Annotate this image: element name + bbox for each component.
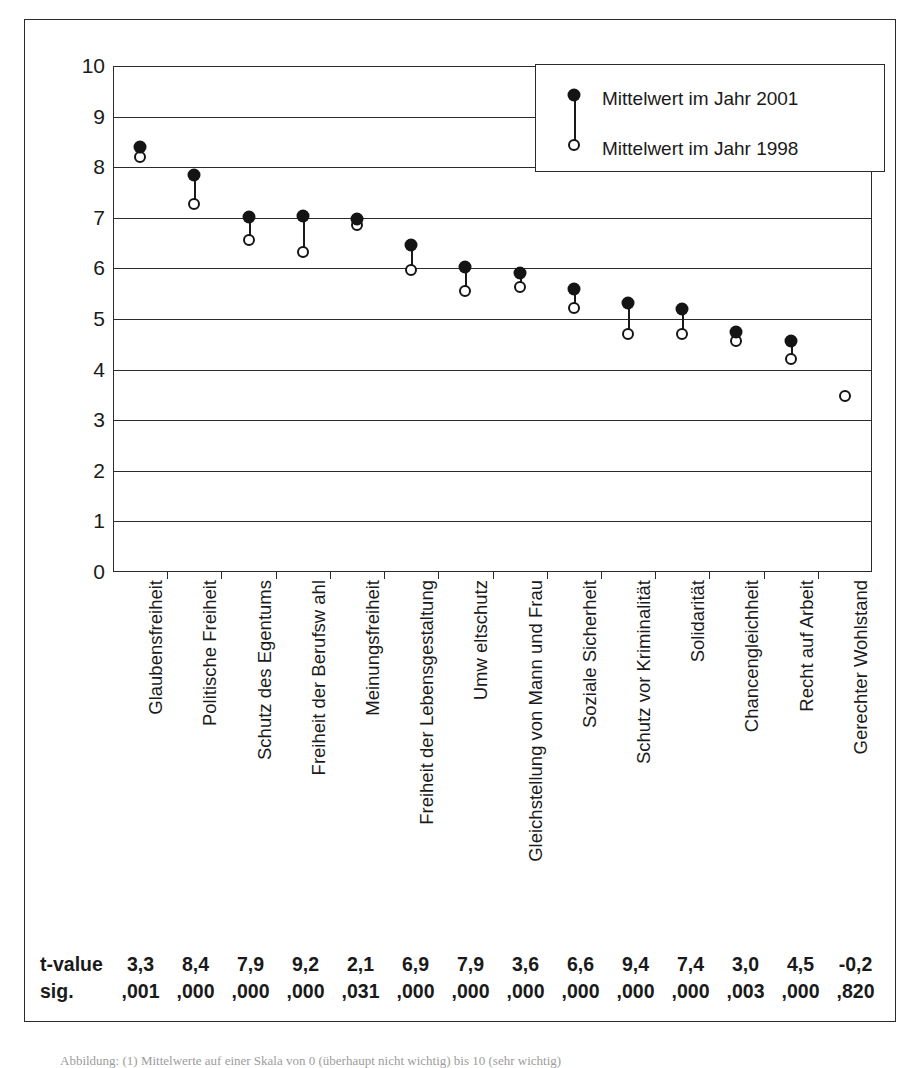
stats-row: sig.,001,000,000,000,031,000,000,000,000…: [40, 982, 885, 1008]
gridline: [113, 370, 872, 371]
x-axis-category-label: Gleichstellung von Mann und Frau: [527, 580, 546, 862]
category-label-text: Solidarität: [689, 580, 708, 662]
y-axis-tick-label: 7: [65, 207, 105, 228]
stats-cell: 6,9: [402, 955, 429, 975]
x-axis-category-label: Umw eltschutz: [472, 580, 491, 700]
x-axis-tick: [547, 572, 548, 579]
data-point-1998: [405, 264, 417, 276]
stats-cell: ,000: [672, 982, 710, 1002]
data-point-1998: [188, 198, 200, 210]
data-point-2001: [784, 334, 797, 347]
x-axis-tick: [764, 572, 765, 579]
x-axis-category-label: Schutz des Egentums: [256, 580, 275, 760]
stats-cell: ,003: [727, 982, 765, 1002]
x-axis-category-label: Solidarität: [689, 580, 708, 662]
x-axis-tick: [384, 572, 385, 579]
gridline: [113, 521, 872, 522]
stats-cell: ,031: [342, 982, 380, 1002]
data-point-2001: [459, 261, 472, 274]
data-point-1998: [839, 390, 851, 402]
stats-cell: ,000: [617, 982, 655, 1002]
stats-cell: 7,4: [677, 955, 704, 975]
x-axis-tick: [438, 572, 439, 579]
x-axis-category-labels: GlaubensfreiheitPolitische FreiheitSchut…: [113, 580, 872, 940]
x-axis-tick: [330, 572, 331, 579]
x-axis-tick: [276, 572, 277, 579]
x-axis-category-label: Meinungsfreiheit: [364, 580, 383, 716]
y-axis-tick-label: 4: [65, 359, 105, 380]
x-axis-category-label: Schutz vor Kriminalität: [635, 580, 654, 764]
data-point-1998: [243, 234, 255, 246]
y-axis-tick-label: 5: [65, 308, 105, 329]
stats-cell: 2,1: [347, 955, 374, 975]
category-label-text: Chancengleichheit: [743, 580, 762, 732]
stats-cell: ,000: [782, 982, 820, 1002]
x-axis-tick: [601, 572, 602, 579]
gridline: [113, 319, 872, 320]
data-point-1998: [676, 328, 688, 340]
category-label-text: Meinungsfreiheit: [364, 580, 383, 716]
stats-cell: 3,0: [732, 955, 759, 975]
x-axis-category-label: Gerechter Wohlstand: [852, 580, 871, 754]
x-axis-category-label: Freiheit der Berufsw ahl: [310, 580, 329, 775]
stats-cell: 3,6: [512, 955, 539, 975]
category-label-text: Recht auf Arbeit: [798, 580, 817, 712]
category-label-text: Freiheit der Lebensgestaltung: [418, 580, 437, 825]
x-axis-ticks: [113, 572, 872, 580]
y-axis-tick-label: 3: [65, 409, 105, 430]
stats-cell: 9,4: [622, 955, 649, 975]
y-axis-tick-label: 1: [65, 510, 105, 531]
data-point-1998: [297, 246, 309, 258]
gridline: [113, 218, 872, 219]
stats-cell: 4,5: [787, 955, 814, 975]
legend: Mittelwert im Jahr 2001 Mittelwert im Ja…: [535, 64, 885, 172]
stats-cell: 7,9: [237, 955, 264, 975]
y-axis-tick-label: 8: [65, 156, 105, 177]
stats-cell: 9,2: [292, 955, 319, 975]
data-point-2001: [350, 213, 363, 226]
y-axis: 012345678910: [55, 66, 105, 572]
x-axis-tick: [167, 572, 168, 579]
category-label-text: Soziale Sicherheit: [581, 580, 600, 728]
x-axis-category-label: Chancengleichheit: [743, 580, 762, 732]
x-axis-category-label: Freiheit der Lebensgestaltung: [418, 580, 437, 825]
data-point-1998: [514, 281, 526, 293]
x-axis-tick: [493, 572, 494, 579]
gridline: [113, 420, 872, 421]
legend-connector: [574, 95, 576, 145]
stats-cell: -0,2: [839, 955, 873, 975]
data-point-2001: [567, 282, 580, 295]
data-point-2001: [730, 325, 743, 338]
data-point-2001: [188, 168, 201, 181]
stats-cell: ,000: [177, 982, 215, 1002]
data-point-2001: [296, 210, 309, 223]
x-axis-category-label: Politische Freiheit: [201, 580, 220, 726]
gridline: [113, 471, 872, 472]
category-label-text: Gleichstellung von Mann und Frau: [527, 580, 546, 862]
x-axis-category-label: Recht auf Arbeit: [798, 580, 817, 712]
legend-marker-2001-icon: [568, 89, 581, 102]
y-axis-tick-label: 0: [65, 561, 105, 582]
category-label-text: Politische Freiheit: [201, 580, 220, 726]
data-point-1998: [459, 285, 471, 297]
category-label-text: Schutz vor Kriminalität: [635, 580, 654, 764]
x-axis-tick: [655, 572, 656, 579]
data-point-1998: [622, 328, 634, 340]
y-axis-tick-label: 9: [65, 106, 105, 127]
x-axis-category-label: Glaubensfreiheit: [147, 580, 166, 715]
data-point-2001: [134, 140, 147, 153]
stats-row: t-value3,38,47,99,22,16,97,93,66,69,47,4…: [40, 955, 885, 981]
gridline: [113, 268, 872, 269]
stats-cell: ,000: [397, 982, 435, 1002]
data-point-2001: [676, 302, 689, 315]
data-point-1998: [785, 353, 797, 365]
y-axis-tick-label: 6: [65, 257, 105, 278]
data-point-2001: [622, 296, 635, 309]
category-label-text: Glaubensfreiheit: [147, 580, 166, 715]
stats-cell: ,820: [837, 982, 875, 1002]
stats-cell: ,000: [562, 982, 600, 1002]
stats-cell: 6,6: [567, 955, 594, 975]
category-label-text: Freiheit der Berufsw ahl: [310, 580, 329, 775]
stats-cell: ,001: [122, 982, 160, 1002]
legend-marker-1998-icon: [568, 139, 580, 151]
